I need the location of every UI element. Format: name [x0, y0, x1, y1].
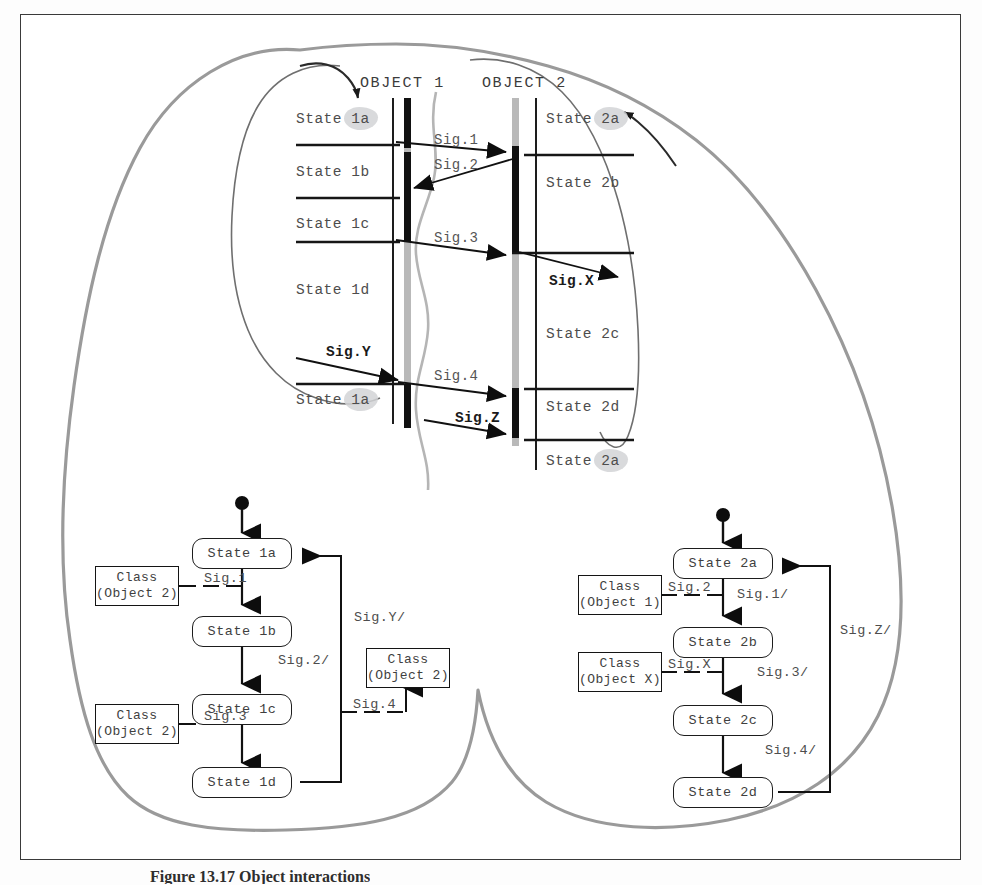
object-2-label: OBJECT 2: [482, 76, 567, 91]
signal-label-sm1-sig-4: Sig.4: [353, 698, 396, 712]
signal-label-sm1-sig-1: Sig.1: [204, 572, 247, 586]
sequence-state-object2-3: State 2d: [546, 400, 620, 415]
message-label-sig-4: Sig.4: [434, 369, 479, 383]
class-box-object-1-sig2[interactable]: Class (Object 1): [578, 575, 662, 615]
figure-caption: Figure 13.17 Object interactions: [150, 868, 370, 885]
state-node-2b[interactable]: State 2b: [673, 627, 773, 658]
state-node-2d[interactable]: State 2d: [673, 777, 773, 808]
state-node-1a[interactable]: State 1a: [192, 538, 292, 569]
message-label-sig-1: Sig.1: [434, 133, 479, 147]
signal-label-sm1-sig-3: Sig.3: [204, 710, 247, 724]
class-box-line-2: (Object 2): [96, 724, 178, 740]
transition-label-sm2-sig-z: Sig.Z/: [840, 624, 892, 638]
transition-label-sm2-sig-3: Sig.3/: [757, 666, 809, 680]
signal-label-sm2-sig-x: Sig.X: [668, 658, 711, 672]
object-1-label: OBJECT 1: [360, 76, 445, 91]
transition-label-sm1-sig-2: Sig.2/: [278, 654, 330, 668]
class-box-object-2-sig3[interactable]: Class (Object 2): [95, 704, 179, 744]
sequence-state-object1-3: State 1d: [296, 283, 370, 298]
class-box-line-2: (Object X): [579, 672, 661, 688]
class-box-line-1: Class: [387, 652, 428, 668]
sequence-state-object1-0: State 1a: [296, 112, 370, 127]
sequence-state-object2-4: State 2a: [546, 454, 620, 469]
class-box-line-2: (Object 2): [96, 586, 178, 602]
sequence-state-object2-0: State 2a: [546, 112, 620, 127]
class-box-object-2-sig4[interactable]: Class (Object 2): [366, 648, 450, 688]
signal-label-sm2-sig-2: Sig.2: [668, 581, 711, 595]
state-node-1d[interactable]: State 1d: [192, 767, 292, 798]
sequence-state-object2-2: State 2c: [546, 327, 620, 342]
class-box-object-x-sigx[interactable]: Class (Object X): [578, 652, 662, 692]
message-label-sig-3: Sig.3: [434, 231, 479, 245]
class-box-line-1: Class: [599, 656, 640, 672]
class-box-line-2: (Object 2): [367, 668, 449, 684]
transition-label-sm1-sig-y: Sig.Y/: [354, 611, 406, 625]
message-label-sig-2: Sig.2: [434, 158, 479, 172]
state-node-1b[interactable]: State 1b: [192, 616, 292, 647]
message-label-sig-z: Sig.Z: [455, 411, 500, 426]
class-box-object-2-sig1[interactable]: Class (Object 2): [95, 566, 179, 606]
sequence-state-object1-2: State 1c: [296, 217, 370, 232]
sequence-state-object1-4: State 1a: [296, 393, 370, 408]
sequence-state-object2-1: State 2b: [546, 176, 620, 191]
class-box-line-1: Class: [116, 708, 157, 724]
transition-label-sm2-sig-1: Sig.1/: [737, 588, 789, 602]
sequence-state-object1-1: State 1b: [296, 165, 370, 180]
transition-label-sm2-sig-4: Sig.4/: [765, 744, 817, 758]
state-node-2c[interactable]: State 2c: [673, 705, 773, 736]
class-box-line-1: Class: [599, 579, 640, 595]
class-box-line-2: (Object 1): [579, 595, 661, 611]
message-label-sig-y: Sig.Y: [326, 345, 371, 360]
class-box-line-1: Class: [116, 570, 157, 586]
figure-page: OBJECT 1 OBJECT 2 State 1a State 1b Stat…: [0, 0, 982, 885]
state-node-2a[interactable]: State 2a: [673, 548, 773, 579]
message-label-sig-x: Sig.X: [549, 274, 594, 289]
